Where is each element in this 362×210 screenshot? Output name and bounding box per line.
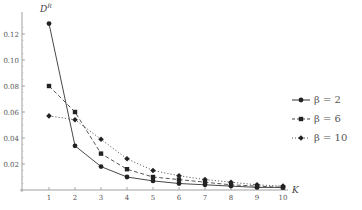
x-tick-label: 4 [125, 194, 130, 202]
x-tick-label: 9 [255, 194, 259, 202]
x-tick-label: 5 [151, 194, 155, 202]
x-tick-label: 8 [229, 194, 233, 202]
y-tick-label: 0.04 [3, 135, 19, 143]
y-tick-label: 0.10 [3, 57, 19, 65]
x-tick-label: 1 [47, 194, 51, 202]
legend-label: β = 2 [314, 94, 341, 105]
legend-item-beta-6: β = 6 [292, 109, 347, 128]
data-point [151, 175, 155, 179]
x-axis-title: K [291, 185, 300, 195]
data-point [125, 167, 129, 171]
data-point [150, 168, 156, 174]
y-tick-label: 0.06 [3, 109, 19, 117]
axes: 0.020.040.060.080.100.1212345678910 [3, 12, 288, 202]
legend-label: β = 6 [314, 113, 341, 124]
data-point [73, 110, 77, 114]
dotted-diamond-marker-icon [292, 134, 310, 142]
data-point [73, 143, 78, 148]
legend-label: β = 10 [314, 132, 347, 143]
x-tick-label: 3 [99, 194, 103, 202]
data-point [46, 113, 52, 119]
dashed-square-marker-icon [292, 115, 310, 123]
legend-item-beta-2: β = 2 [292, 90, 347, 109]
y-axis-title: DR [39, 2, 52, 14]
x-tick-label: 2 [73, 194, 77, 202]
series-group [46, 21, 286, 190]
data-point [99, 164, 104, 169]
x-tick-label: 10 [279, 194, 288, 202]
data-point [47, 84, 51, 88]
y-tick-label: 0.08 [3, 83, 19, 91]
data-point [99, 151, 103, 155]
y-tick-label: 0.02 [3, 161, 19, 169]
solid-circle-marker-icon [292, 96, 310, 104]
x-tick-label: 6 [177, 194, 182, 202]
data-point [151, 179, 156, 184]
series-square [47, 84, 285, 190]
legend-item-beta-10: β = 10 [292, 128, 347, 147]
data-point [124, 156, 130, 162]
series-circle [47, 21, 286, 190]
data-point [125, 175, 130, 180]
x-tick-label: 7 [203, 194, 207, 202]
data-point [177, 181, 182, 186]
y-tick-label: 0.12 [3, 31, 19, 39]
data-point [47, 21, 52, 26]
legend: β = 2 β = 6 β = 10 [292, 90, 347, 147]
